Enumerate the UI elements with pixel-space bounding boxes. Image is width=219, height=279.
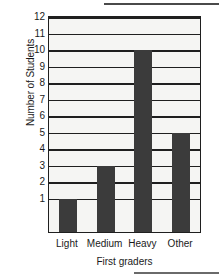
bar [97, 166, 115, 232]
bar [172, 133, 190, 232]
y-axis-tick-label: 3 [39, 161, 45, 171]
y-axis-tick-label: 11 [35, 29, 45, 39]
bar [134, 50, 152, 232]
x-axis-tick-label: Other [168, 238, 193, 250]
y-axis-tick-label: 9 [39, 62, 45, 72]
y-axis-tick-label: 12 [34, 12, 45, 22]
x-axis-tick-label: Heavy [128, 238, 156, 250]
y-axis-tick-label: 2 [39, 177, 45, 187]
bars-group [49, 17, 200, 232]
y-axis-tick-label: 5 [39, 128, 45, 138]
y-axis-title: Number of Students [25, 0, 36, 173]
bar-chart-figure: Number of Students 121110987654321 Light… [0, 0, 219, 279]
bottom-rule-artifact [134, 272, 219, 274]
y-axis-tick-label: 10 [34, 45, 45, 55]
y-axis-tick-label: 4 [39, 144, 45, 154]
y-axis-tick-label: 6 [39, 111, 45, 121]
x-axis-title: First graders [48, 256, 201, 267]
y-axis-tick-label: 1 [39, 194, 45, 204]
y-axis-tick-label: 7 [39, 95, 45, 105]
y-axis-tick-label: 8 [39, 78, 45, 88]
x-axis-tick-labels: LightMediumHeavyOther [48, 238, 201, 252]
x-axis-tick-label: Light [56, 238, 78, 250]
top-rule-artifact [104, 3, 219, 5]
bar [59, 199, 77, 232]
x-axis-tick-label: Medium [87, 238, 123, 250]
plot-area: 121110987654321 [48, 16, 201, 233]
